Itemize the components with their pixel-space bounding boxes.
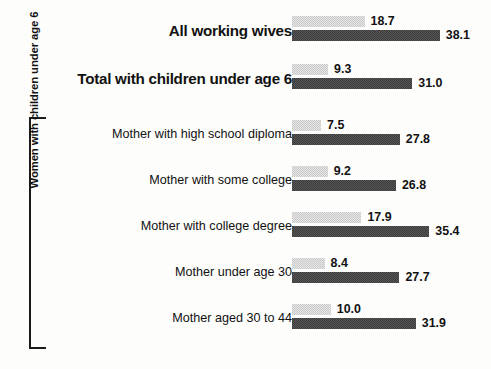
bar-light (292, 304, 331, 315)
bar-value-light: 8.4 (331, 257, 348, 269)
bar-dark (292, 30, 440, 41)
bar-line-light: 18.7 (292, 16, 395, 27)
row-bars: 7.527.8 (292, 112, 491, 156)
bar-value-dark: 31.0 (418, 77, 442, 89)
bar-line-dark: 31.9 (292, 318, 446, 329)
bar-value-light: 7.5 (327, 119, 344, 131)
bar-line-light: 7.5 (292, 120, 344, 131)
bar-dark (292, 134, 400, 145)
bar-value-dark: 38.1 (446, 29, 470, 41)
bar-chart: Women with children under age 6 All work… (0, 0, 491, 369)
bar-value-dark: 35.4 (435, 225, 459, 237)
row-label: Mother with high school diploma (112, 112, 292, 156)
row-bars: 17.935.4 (292, 204, 491, 248)
row-label: Mother aged 30 to 44 (172, 296, 292, 340)
chart-row: All working wives18.738.1 (0, 8, 491, 52)
row-bars: 18.738.1 (292, 8, 491, 52)
bar-dark (292, 226, 429, 237)
chart-row: Total with children under age 69.331.0 (0, 56, 491, 100)
bar-line-light: 10.0 (292, 304, 361, 315)
chart-row: Mother with high school diploma7.527.8 (0, 112, 491, 156)
bar-dark (292, 78, 412, 89)
bar-value-light: 17.9 (367, 211, 391, 223)
bar-dark (292, 272, 399, 283)
row-label: Mother under age 30 (175, 250, 292, 294)
bar-value-light: 9.2 (334, 165, 351, 177)
bar-value-light: 10.0 (337, 303, 361, 315)
row-bars: 8.427.7 (292, 250, 491, 294)
bar-line-dark: 35.4 (292, 226, 459, 237)
chart-row: Mother with some college9.226.8 (0, 158, 491, 202)
row-bars: 9.331.0 (292, 56, 491, 100)
bar-dark (292, 180, 396, 191)
row-label: Mother with some college (149, 158, 292, 202)
chart-row: Mother with college degree17.935.4 (0, 204, 491, 248)
bar-light (292, 258, 325, 269)
bar-line-dark: 27.8 (292, 134, 430, 145)
bar-line-light: 9.2 (292, 166, 351, 177)
bar-value-dark: 26.8 (402, 179, 426, 191)
bar-light (292, 166, 328, 177)
bar-light (292, 16, 365, 27)
bar-value-dark: 27.7 (405, 271, 429, 283)
bar-value-dark: 31.9 (422, 317, 446, 329)
chart-row: Mother under age 308.427.7 (0, 250, 491, 294)
bar-line-dark: 27.7 (292, 272, 430, 283)
bar-line-dark: 38.1 (292, 30, 470, 41)
bar-light (292, 120, 321, 131)
row-label: Total with children under age 6 (77, 56, 292, 100)
row-bars: 10.031.9 (292, 296, 491, 340)
row-bars: 9.226.8 (292, 158, 491, 202)
bar-light (292, 212, 361, 223)
bar-line-light: 17.9 (292, 212, 392, 223)
bar-line-dark: 31.0 (292, 78, 442, 89)
bar-dark (292, 318, 416, 329)
chart-row: Mother aged 30 to 4410.031.9 (0, 296, 491, 340)
bar-line-dark: 26.8 (292, 180, 426, 191)
bar-light (292, 64, 328, 75)
bar-value-light: 18.7 (371, 15, 395, 27)
bar-line-light: 9.3 (292, 64, 351, 75)
row-label: All working wives (169, 8, 292, 52)
bar-value-dark: 27.8 (406, 133, 430, 145)
bar-line-light: 8.4 (292, 258, 348, 269)
row-label: Mother with college degree (141, 204, 292, 248)
bar-value-light: 9.3 (334, 63, 351, 75)
